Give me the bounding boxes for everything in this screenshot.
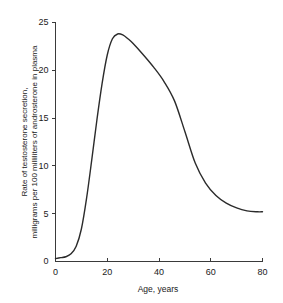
x-axis-ticks [107,258,262,262]
y-axis-tick-label: 15 [38,113,48,123]
testosterone-secretion-line-chart: 0510152025 020406080 Age, years Rate of … [0,0,283,303]
chart-figure: 0510152025 020406080 Age, years Rate of … [0,0,283,303]
y-axis-tick-label: 10 [38,161,48,171]
x-axis-tick-labels: 020406080 [53,267,268,277]
x-axis-tick-label: 20 [102,267,112,277]
y-axis-tick-label: 5 [43,209,48,219]
x-axis-tick-label: 60 [206,267,216,277]
x-axis-tick-label: 80 [257,267,267,277]
y-axis-tick-label: 20 [38,65,48,75]
data-series-line [56,34,263,259]
y-axis-tick-label: 25 [38,17,48,27]
y-axis-tick-labels: 0510152025 [38,17,48,266]
y-axis-tick-label: 0 [43,256,48,266]
x-axis-tick-label: 40 [154,267,164,277]
y-axis-title-line-1: Rate of testosterone secretion, [20,88,29,197]
y-axis-title-line-2: milligrams per 100 milliliters of andros… [30,45,39,239]
x-axis-tick-label: 0 [53,267,58,277]
x-axis-title: Age, years [138,284,179,294]
axes-group [56,23,263,262]
y-axis-ticks [52,23,56,214]
